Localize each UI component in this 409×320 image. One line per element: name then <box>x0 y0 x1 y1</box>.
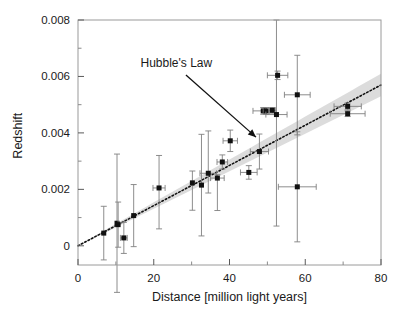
data-point-marker <box>228 138 233 143</box>
x-tick-label: 0 <box>75 272 81 284</box>
x-axis-label: Distance [million light years] <box>152 290 307 304</box>
data-point-marker <box>190 180 195 185</box>
data-point-marker <box>215 176 220 181</box>
data-point-marker <box>257 149 262 154</box>
data-point-marker <box>295 184 300 189</box>
data-point-marker <box>275 73 280 78</box>
data-point-marker <box>345 104 350 109</box>
data-point-marker <box>199 183 204 188</box>
data-point-marker <box>131 213 136 218</box>
data-point-marker <box>116 222 121 227</box>
x-tick-label: 20 <box>147 272 160 284</box>
data-point-marker <box>295 92 300 97</box>
y-axis-label: Redshift <box>11 112 25 158</box>
annotation-arrow-line <box>186 75 256 137</box>
y-tick-label: 0.002 <box>41 183 70 195</box>
data-point-marker <box>101 231 106 236</box>
confidence-band <box>78 74 381 247</box>
y-tick-label: 0.008 <box>41 14 70 26</box>
x-tick-label: 80 <box>375 272 388 284</box>
chart-canvas: 00.0020.0040.0060.008020406080Distance [… <box>0 0 409 320</box>
data-point-marker <box>157 185 162 190</box>
y-tick-label: 0 <box>64 240 70 252</box>
y-tick-label: 0.004 <box>41 127 70 139</box>
data-point-marker <box>121 235 126 240</box>
data-point-marker <box>220 159 225 164</box>
annotation-label: Hubble's Law <box>140 56 212 70</box>
x-tick-label: 60 <box>299 272 312 284</box>
data-point-marker <box>206 171 211 176</box>
y-tick-label: 0.006 <box>41 70 70 82</box>
x-tick-label: 40 <box>223 272 236 284</box>
data-point-marker <box>246 170 251 175</box>
data-point-marker <box>345 111 350 116</box>
hubble-law-scatter-figure: 00.0020.0040.0060.008020406080Distance [… <box>0 0 409 320</box>
data-point-marker <box>274 112 279 117</box>
